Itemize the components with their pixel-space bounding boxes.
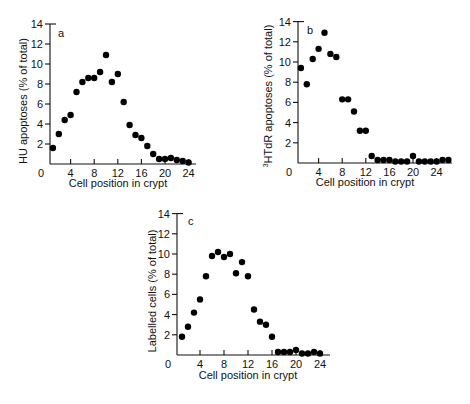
x-tick-label: 4 [197, 358, 203, 370]
data-point [50, 145, 56, 151]
data-point [439, 157, 445, 163]
data-point [115, 71, 121, 77]
x-tick-label: 12 [360, 166, 372, 178]
x-tick-label: 20 [407, 166, 419, 178]
data-point [287, 349, 293, 355]
y-tick-label: 2 [164, 329, 170, 341]
y-axis-title-a: HU apoptoses (% of total) [17, 38, 29, 164]
data-point [357, 127, 363, 133]
x-tick-label: 20 [159, 167, 171, 179]
y-tick-label: 10 [158, 248, 170, 260]
data-point [333, 54, 339, 60]
data-point [445, 157, 451, 163]
data-point [144, 143, 150, 149]
data-point [203, 273, 209, 279]
y-tick-label: 14 [31, 18, 43, 30]
data-point [109, 79, 115, 85]
panel-b: 3HTdR apoptoses (% of total) Cell positi… [262, 16, 452, 188]
data-point [168, 155, 174, 161]
x-tick-label: 16 [266, 358, 278, 370]
data-point [310, 56, 316, 62]
y-tick-label: 6 [285, 96, 291, 108]
data-point [269, 334, 275, 340]
panel-label-a: a [58, 27, 65, 39]
data-point [351, 108, 357, 114]
axes-b: 246810121404812162024 [279, 16, 452, 178]
data-point [386, 157, 392, 163]
data-point [245, 273, 251, 279]
x-tick-label: 12 [112, 167, 124, 179]
x-tick-label: 0 [38, 167, 44, 179]
data-point [215, 249, 221, 255]
y-tick-label: 12 [158, 228, 170, 240]
data-points-c [179, 249, 323, 357]
data-point [61, 117, 67, 123]
data-point [97, 69, 103, 75]
y-tick-label: 14 [158, 208, 170, 220]
data-point [103, 52, 109, 58]
data-point [239, 259, 245, 265]
x-tick-label: 8 [339, 166, 345, 178]
data-point [339, 96, 345, 102]
data-point [132, 132, 138, 138]
panel-c: Labelled cells (% of total) Cell positio… [146, 208, 330, 381]
y-tick-label: 10 [279, 56, 291, 68]
panel-label-b: b [307, 24, 313, 36]
data-point [79, 79, 85, 85]
data-point [293, 347, 299, 353]
data-point [363, 127, 369, 133]
data-point [179, 334, 185, 340]
data-point [410, 153, 416, 159]
y-tick-label: 4 [285, 117, 291, 129]
data-point [317, 350, 323, 356]
x-tick-label: 0 [286, 166, 292, 178]
data-point [304, 81, 310, 87]
data-point [281, 349, 287, 355]
data-point [404, 158, 410, 164]
data-point [257, 318, 263, 324]
x-tick-label: 0 [165, 358, 171, 370]
data-point [345, 96, 351, 102]
axes-c: 246810121404812162024 [158, 208, 330, 370]
data-point [374, 157, 380, 163]
x-tick-label: 12 [242, 358, 254, 370]
data-point [416, 158, 422, 164]
data-point [275, 349, 281, 355]
data-point [433, 158, 439, 164]
panel-a: HU apoptoses (% of total) Cell position … [17, 18, 196, 189]
x-tick-label: 24 [430, 166, 442, 178]
x-tick-label: 4 [68, 167, 74, 179]
data-point [150, 151, 156, 157]
data-point [299, 350, 305, 356]
data-point [392, 158, 398, 164]
x-tick-label: 24 [182, 167, 194, 179]
y-tick-label: 10 [31, 58, 43, 70]
y-tick-label: 4 [164, 309, 170, 321]
data-point [191, 309, 197, 315]
y-axis-title-b: 3HTdR apoptoses (% of total) [262, 25, 274, 168]
panel-label-c: c [188, 215, 194, 227]
data-point [327, 51, 333, 57]
data-point [56, 131, 62, 137]
data-point [398, 158, 404, 164]
data-point [138, 135, 144, 141]
data-point [380, 157, 386, 163]
x-tick-label: 16 [383, 166, 395, 178]
data-point [422, 158, 428, 164]
data-point [428, 158, 434, 164]
data-point [121, 99, 127, 105]
data-points-b [298, 30, 452, 165]
data-point [311, 349, 317, 355]
x-tick-label: 20 [290, 358, 302, 370]
y-axis-title-c: Labelled cells (% of total) [146, 230, 158, 353]
data-point [156, 156, 162, 162]
data-point [180, 158, 186, 164]
y-tick-label: 6 [164, 288, 170, 300]
y-tick-label: 8 [37, 78, 43, 90]
data-point [162, 156, 168, 162]
y-tick-label: 2 [285, 137, 291, 149]
x-tick-label: 24 [314, 358, 326, 370]
data-point [67, 112, 73, 118]
figure: HU apoptoses (% of total) Cell position … [0, 0, 470, 404]
y-tick-label: 12 [31, 38, 43, 50]
